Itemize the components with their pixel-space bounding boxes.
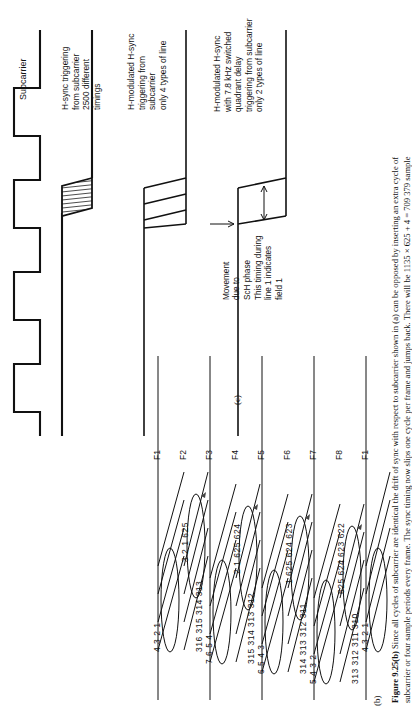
movement-sch-annotation: Movement due to ScH phase [222,260,253,300]
h-modulated-4types-label: H-modulated H-sync triggering from subca… [126,34,168,110]
figure-caption-line-2: subcarrier or four sample periods every … [402,156,412,703]
field-label-f1-repeat: F1 [360,450,370,460]
h-modulated-quadrant-label: H-modulated H-sync with 7.8 kHz switched… [212,18,265,112]
line-numbers-f1-top: 4 3 2 1 [152,623,162,653]
figure-caption-line-1: Figure 9.25(b) Since all cycles of subca… [390,157,400,703]
line-numbers-f2-top: 3 2 1 625 [180,522,190,562]
field-label-f7: F7 [308,450,318,460]
timing-field1-annotation: This timing during line 1 indicates fiel… [254,235,285,300]
line-numbers-f8-top: 625 624 623 622 [336,523,346,594]
panel-b-label: (b) [372,696,383,707]
field-label-f5: F5 [256,450,266,460]
line-numbers-f3-top: 7 6 5 4 [204,635,214,665]
field-label-f6: F6 [282,450,292,460]
panel-b: F1 F2 F3 F4 F5 F6 F7 F8 F1 4 3 2 1 3 2 1… [150,350,412,707]
line-numbers-f1-repeat-top: 4 3 2 1 [360,623,370,653]
figure-page: Subcarrier H-sync triggering from subcar… [0,0,412,707]
field-label-f8: F8 [334,450,344,460]
hsync-subcarrier-label: H-sync triggering from subcarrier 2500 d… [60,47,102,110]
figure-number: Figure 9.25(b) [390,651,400,703]
line-numbers-f4-bottom: 315 314 313 312 [246,593,256,664]
line-numbers-f6-bottom: 314 313 312 311 [298,603,308,674]
field-label-f2: F2 [178,450,188,460]
line-numbers-f6-top: 1 625 624 623 [284,523,294,584]
panel-c: Subcarrier H-sync triggering from subcar… [0,0,300,410]
line-numbers-f5-top: 6 5 4 3 [256,645,266,675]
line-numbers-f8-bottom: 313 312 311 310 [350,613,360,684]
field-label-f1: F1 [152,450,162,460]
line-numbers-f4-top: 2 1 625 624 [232,524,242,574]
caption-text-2: subcarrier or four sample periods every … [402,156,412,703]
field-label-f4: F4 [230,450,240,460]
subcarrier-label: Subcarrier [18,58,29,100]
line-numbers-f7-top: 5 4 3 2 [308,655,318,685]
caption-text-1: Since all cycles of subcarrier are ident… [390,157,400,651]
field-label-f3: F3 [204,450,214,460]
line-numbers-f2-bottom: 316 315 314 313 [194,581,204,652]
